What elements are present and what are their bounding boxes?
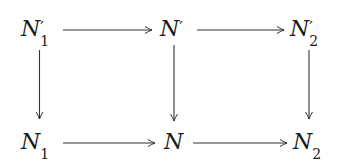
arrows-layer <box>0 0 340 163</box>
